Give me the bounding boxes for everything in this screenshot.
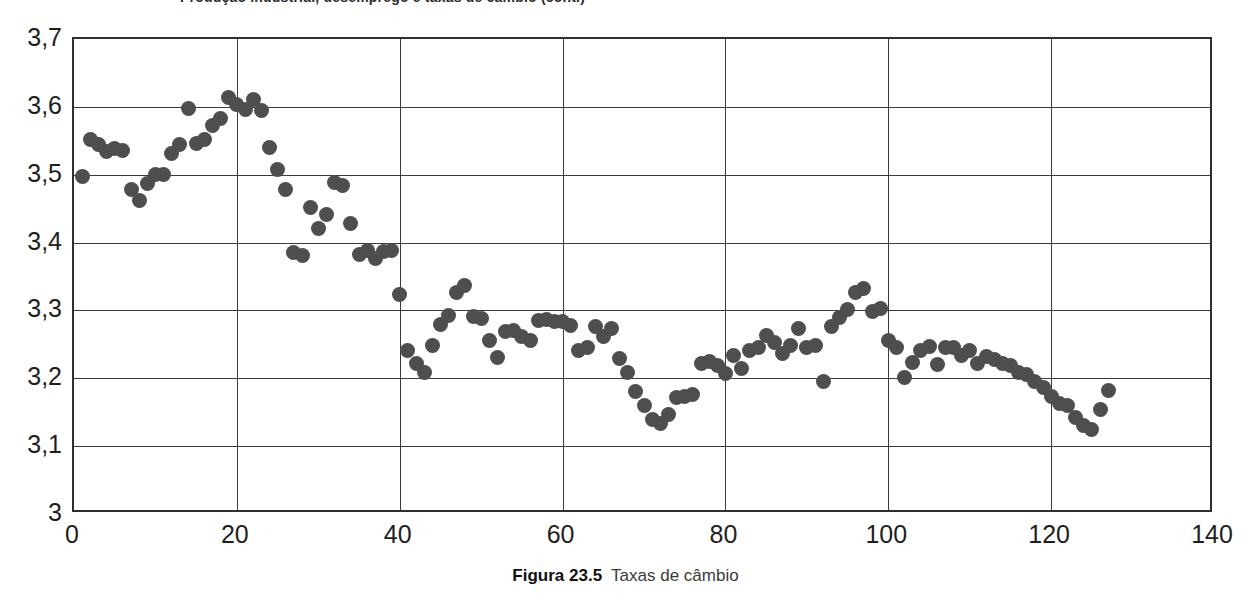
data-point — [417, 365, 432, 380]
data-point — [580, 340, 595, 355]
data-point — [783, 338, 798, 353]
gridline-vertical — [1051, 39, 1052, 510]
data-point — [816, 374, 831, 389]
data-point — [132, 193, 147, 208]
data-point — [278, 182, 293, 197]
gridline-vertical — [563, 39, 564, 510]
y-axis-tick-label: 3,1 — [6, 430, 62, 459]
figure-container: Produção industrial, desemprego e taxas … — [0, 0, 1251, 603]
data-point — [840, 302, 855, 317]
data-point — [661, 407, 676, 422]
data-point — [922, 339, 937, 354]
data-point — [1101, 383, 1116, 398]
data-point — [889, 340, 904, 355]
data-point — [343, 216, 358, 231]
data-point — [262, 140, 277, 155]
figure-caption-text: Taxas de câmbio — [611, 566, 739, 585]
scatter-chart: 33,13,23,33,43,53,63,7020406080100120140 — [0, 0, 1251, 560]
y-axis-tick-label: 3,4 — [6, 226, 62, 255]
data-point — [791, 321, 806, 336]
data-point — [156, 167, 171, 182]
data-point — [873, 301, 888, 316]
data-point — [335, 178, 350, 193]
gridline-vertical — [888, 39, 889, 510]
data-point — [181, 101, 196, 116]
data-point — [172, 137, 187, 152]
y-axis-tick-label: 3,3 — [6, 294, 62, 323]
data-point — [441, 308, 456, 323]
gridline-horizontal — [74, 243, 1210, 244]
x-axis-tick-label: 100 — [851, 520, 921, 549]
x-axis-tick-label: 0 — [37, 520, 107, 549]
data-point — [628, 384, 643, 399]
data-point — [270, 162, 285, 177]
data-point — [295, 248, 310, 263]
data-point — [604, 321, 619, 336]
data-point — [75, 169, 90, 184]
y-axis-tick-label: 3,7 — [6, 23, 62, 52]
data-point — [1093, 402, 1108, 417]
x-axis-tick-label: 40 — [363, 520, 433, 549]
figure-caption: Figura 23.5Taxas de câmbio — [0, 566, 1251, 586]
data-point — [637, 398, 652, 413]
gridline-horizontal — [74, 446, 1210, 447]
data-point — [718, 366, 733, 381]
data-point — [563, 318, 578, 333]
data-point — [303, 200, 318, 215]
data-point — [311, 221, 326, 236]
data-point — [1084, 422, 1099, 437]
data-point — [115, 143, 130, 158]
data-point — [213, 111, 228, 126]
gridline-vertical — [725, 39, 726, 510]
data-point — [474, 311, 489, 326]
y-axis-tick-label: 3,6 — [6, 90, 62, 119]
data-point — [856, 281, 871, 296]
gridline-vertical — [400, 39, 401, 510]
data-point — [392, 287, 407, 302]
data-point — [425, 338, 440, 353]
x-axis-tick-label: 120 — [1014, 520, 1084, 549]
data-point — [490, 350, 505, 365]
x-axis-tick-label: 20 — [200, 520, 270, 549]
data-point — [197, 132, 212, 147]
data-point — [685, 387, 700, 402]
data-point — [523, 333, 538, 348]
y-axis-tick-label: 3,2 — [6, 362, 62, 391]
gridline-horizontal — [74, 175, 1210, 176]
data-point — [482, 333, 497, 348]
data-point — [254, 103, 269, 118]
x-axis-tick-label: 60 — [526, 520, 596, 549]
data-point — [384, 243, 399, 258]
data-point — [734, 361, 749, 376]
gridline-horizontal — [74, 310, 1210, 311]
data-point — [897, 370, 912, 385]
data-point — [612, 351, 627, 366]
data-point — [808, 338, 823, 353]
x-axis-tick-label: 80 — [688, 520, 758, 549]
data-point — [930, 357, 945, 372]
data-point — [319, 207, 334, 222]
figure-caption-label: Figura 23.5 — [512, 566, 602, 585]
data-point — [457, 278, 472, 293]
x-axis-tick-label: 140 — [1177, 520, 1247, 549]
y-axis-tick-label: 3,5 — [6, 158, 62, 187]
plot-area — [72, 37, 1212, 512]
